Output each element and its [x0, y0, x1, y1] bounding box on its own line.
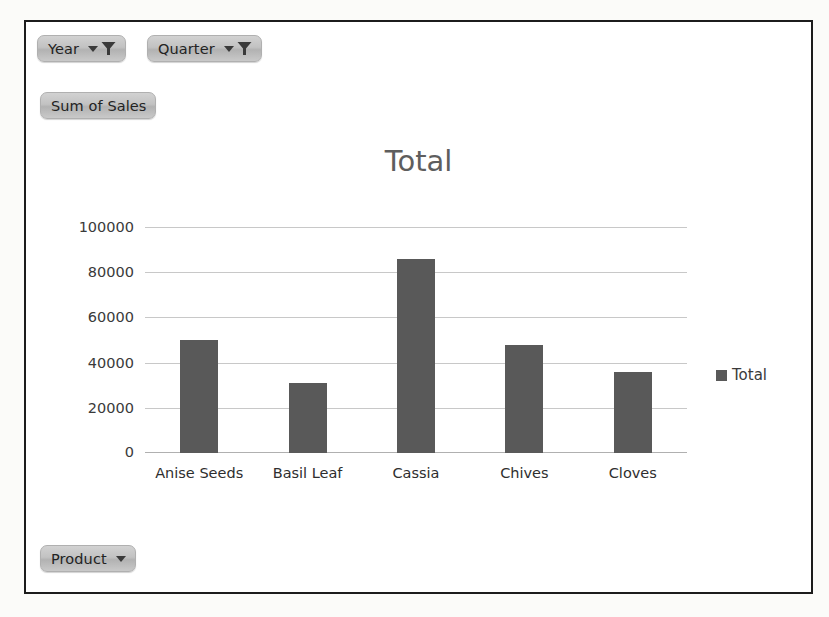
y-axis-tick-label: 20000: [88, 400, 134, 416]
y-axis-tick-label: 60000: [88, 309, 134, 325]
field-button-quarter-label: Quarter: [158, 41, 215, 57]
legend-label-total: Total: [732, 366, 767, 384]
field-button-product[interactable]: Product: [40, 545, 136, 572]
caret-down-icon: [224, 46, 234, 52]
filter-funnel-icon: [100, 40, 117, 57]
caret-down-icon: [116, 556, 126, 562]
bar-slot: Cloves: [579, 227, 687, 453]
bar-chives[interactable]: [505, 345, 543, 453]
field-button-values-label: Sum of Sales: [51, 98, 147, 114]
field-button-year[interactable]: Year: [37, 35, 126, 62]
pivot-chart-frame[interactable]: Year Quarter Sum of Sales Total 100000 8…: [24, 20, 813, 594]
bar-cloves[interactable]: [614, 372, 652, 453]
legend-swatch-icon: [716, 370, 727, 381]
bar-slot: Anise Seeds: [145, 227, 253, 453]
bar-slot: Basil Leaf: [253, 227, 361, 453]
y-axis-tick-label: 100000: [79, 219, 134, 235]
x-axis-category-label: Cloves: [579, 465, 687, 482]
field-button-quarter-icons[interactable]: [224, 40, 253, 57]
field-button-product-label: Product: [51, 551, 107, 567]
field-button-product-icons[interactable]: [116, 556, 127, 562]
chart-legend[interactable]: Total: [716, 366, 767, 384]
field-button-year-icons[interactable]: [88, 40, 117, 57]
bar-series-total: Anise Seeds Basil Leaf Cassia Chives Clo…: [145, 227, 687, 453]
x-axis-category-label: Cassia: [362, 465, 470, 482]
caret-down-icon: [88, 46, 98, 52]
x-axis-category-label: Basil Leaf: [253, 465, 361, 482]
y-axis-tick-label: 0: [125, 444, 134, 460]
field-button-quarter[interactable]: Quarter: [147, 35, 262, 62]
x-axis-category-label: Chives: [470, 465, 578, 482]
y-axis-tick-label: 40000: [88, 355, 134, 371]
bar-cassia[interactable]: [397, 259, 435, 453]
plot-area: 100000 80000 60000 40000 20000 0 Anise S…: [145, 227, 687, 453]
bar-basil-leaf[interactable]: [289, 383, 327, 453]
y-axis-tick-label: 80000: [88, 264, 134, 280]
chart-title: Total: [26, 144, 811, 178]
bar-anise-seeds[interactable]: [180, 340, 218, 453]
bar-slot: Chives: [470, 227, 578, 453]
field-button-year-label: Year: [48, 41, 79, 57]
filter-funnel-icon: [236, 40, 253, 57]
bar-slot: Cassia: [362, 227, 470, 453]
field-button-values[interactable]: Sum of Sales: [40, 92, 156, 119]
x-axis-category-label: Anise Seeds: [145, 465, 253, 482]
